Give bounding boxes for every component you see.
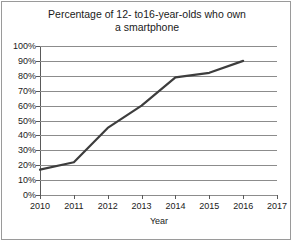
chart-title: Percentage of 12- to16-year-olds who own… — [18, 8, 276, 34]
y-axis-tick-label: 10% — [2, 175, 36, 185]
x-axis-tick-mark — [74, 195, 75, 199]
x-axis-tick-mark — [243, 195, 244, 199]
x-axis-title: Year — [40, 216, 278, 226]
y-axis-tick-label: 90% — [2, 56, 36, 66]
y-axis-tick-label: 30% — [2, 145, 36, 155]
chart-title-line-2: a smartphone — [115, 21, 179, 33]
y-axis-tick-label: 0% — [2, 190, 36, 200]
y-axis-tick-label: 60% — [2, 101, 36, 111]
x-axis-tick-mark — [108, 195, 109, 199]
gridline — [40, 195, 277, 196]
y-axis-tick-label: 100% — [2, 41, 36, 51]
y-axis-tick-label: 20% — [2, 160, 36, 170]
chart-figure: Percentage of 12- to16-year-olds who own… — [0, 0, 293, 242]
chart-title-line-1: Percentage of 12- to16-year-olds who own — [48, 8, 246, 20]
x-axis-tick-mark — [175, 195, 176, 199]
y-axis-tick-label: 80% — [2, 71, 36, 81]
data-series-smartphone-ownership — [40, 46, 277, 195]
plot-area — [40, 46, 277, 195]
y-axis-tick-label: 70% — [2, 86, 36, 96]
x-axis-tick-label: 2017 — [257, 201, 293, 211]
x-axis-tick-mark — [277, 195, 278, 199]
y-axis-tick-label: 50% — [2, 116, 36, 126]
x-axis-tick-mark — [209, 195, 210, 199]
y-axis-tick-label: 40% — [2, 130, 36, 140]
x-axis-tick-mark — [142, 195, 143, 199]
x-axis-tick-mark — [40, 195, 41, 199]
